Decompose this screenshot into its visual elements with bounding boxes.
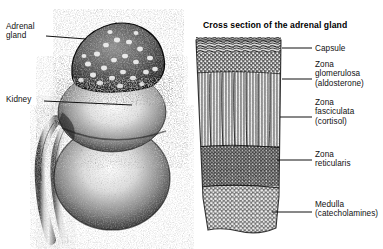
zona-glomerulosa-layer — [190, 50, 290, 74]
label-zona-reticularis: Zona reticularis — [315, 150, 351, 169]
cross-section-title: Cross section of the adrenal gland — [203, 20, 347, 30]
leader-line-adrenal — [46, 36, 86, 39]
label-zona-glomerulosa: Zona glomerulosa (aldosterone) — [315, 60, 364, 88]
capsule-layer — [190, 36, 290, 54]
label-medulla: Medulla (catecholamines) — [315, 200, 378, 219]
label-capsule: Capsule — [315, 44, 345, 53]
label-adrenal-gland: Adrenal gland — [6, 22, 35, 41]
adrenal-gland-figure: Cross section of the adrenal gland Adren… — [0, 0, 383, 249]
adrenal-cross-section-illustration — [190, 36, 312, 238]
label-zona-fasciculata: Zona fasciculata (cortisol) — [315, 98, 354, 126]
kidney-with-adrenal-illustration — [40, 23, 170, 241]
label-kidney: Kidney — [6, 95, 31, 104]
